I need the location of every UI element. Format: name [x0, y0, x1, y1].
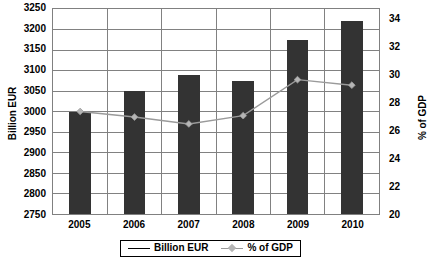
y-axis-left-tick-label: 3050 [24, 86, 46, 96]
x-axis-tick-label: 2010 [342, 219, 364, 230]
x-axis-tick-label: 2005 [68, 219, 90, 230]
y-axis-right-tick-label: 20 [389, 210, 400, 220]
y-axis-right-tick-label: 34 [389, 14, 400, 24]
y-axis-left-tick-label: 2800 [24, 189, 46, 199]
plot-area [52, 8, 380, 215]
y-axis-left-tick-label: 3200 [24, 24, 46, 34]
gridlines [53, 9, 379, 214]
y-axis-left-tick-label: 3250 [24, 3, 46, 13]
y-axis-right-ticks: 3432302826242220 [381, 0, 421, 215]
y-axis-left-ticks: 3250320031503100305030002950290028502800… [0, 0, 50, 215]
y-axis-left-tick-label: 2900 [24, 148, 46, 158]
bar [232, 81, 254, 214]
legend-label-billion-eur: Billion EUR [154, 243, 208, 253]
chart-legend: Billion EUR % of GDP [120, 240, 301, 257]
x-axis-tick-label: 2006 [123, 219, 145, 230]
y-axis-left-tick-label: 2950 [24, 127, 46, 137]
y-axis-right-tick-label: 26 [389, 126, 400, 136]
x-axis-tick-label: 2009 [287, 219, 309, 230]
legend-swatch-line-diamond-icon [221, 244, 243, 253]
y-axis-left-tick-label: 3000 [24, 107, 46, 117]
bar [178, 75, 200, 214]
plot-svg [53, 9, 379, 214]
y-axis-left-tick-label: 3100 [24, 65, 46, 75]
x-axis-tick-label: 2008 [232, 219, 254, 230]
combo-chart: Billion EUR % of GDP 3250320031503100305… [0, 0, 430, 268]
y-axis-right-tick-label: 30 [389, 70, 400, 80]
x-axis-ticks: 200520062007200820092010 [52, 219, 380, 235]
bar [69, 112, 91, 215]
y-axis-right-tick-label: 24 [389, 154, 400, 164]
legend-label-percent-of-gdp: % of GDP [247, 243, 293, 253]
y-axis-left-tick-label: 3150 [24, 44, 46, 54]
bar [341, 21, 363, 214]
legend-swatch-line-icon [128, 244, 150, 253]
y-axis-left-tick-label: 2750 [24, 210, 46, 220]
x-axis-tick-label: 2007 [178, 219, 200, 230]
y-axis-right-tick-label: 28 [389, 98, 400, 108]
legend-item-percent-of-gdp: % of GDP [221, 243, 293, 253]
y-axis-left-tick-label: 2850 [24, 169, 46, 179]
y-axis-right-tick-label: 32 [389, 42, 400, 52]
legend-item-billion-eur: Billion EUR [128, 243, 208, 253]
y-axis-right-tick-label: 22 [389, 182, 400, 192]
bar [124, 91, 146, 214]
bar [287, 40, 309, 214]
